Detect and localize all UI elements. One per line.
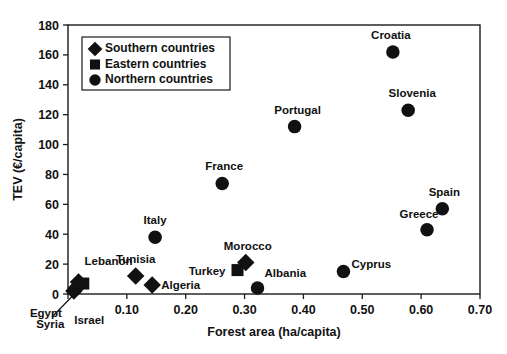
data-point-label-albania: Albania bbox=[265, 267, 307, 279]
data-point-label-croatia: Croatia bbox=[371, 29, 411, 41]
data-point-croatia bbox=[386, 45, 400, 59]
data-point-portugal bbox=[288, 120, 302, 134]
data-point-label-portugal: Portugal bbox=[274, 104, 321, 116]
x-axis-tick-label: 0.50 bbox=[350, 303, 374, 317]
data-point-label-turkey: Turkey bbox=[189, 265, 226, 277]
legend-marker-square bbox=[90, 59, 100, 69]
legend-marker-circle bbox=[89, 74, 100, 85]
y-axis-tick-label: 60 bbox=[45, 198, 59, 212]
x-axis-tick-label: 0.30 bbox=[232, 303, 256, 317]
x-axis-tick-label: 0.20 bbox=[174, 303, 198, 317]
y-axis-title: TEV (€/capita) bbox=[11, 118, 25, 201]
data-point-greece bbox=[420, 223, 434, 237]
legend-label-eastern: Eastern countries bbox=[105, 57, 207, 71]
y-axis-tick-label: 40 bbox=[45, 228, 59, 242]
x-axis-tick-label: 0.40 bbox=[291, 303, 315, 317]
y-axis-tick-label: 80 bbox=[45, 168, 59, 182]
data-point-france bbox=[215, 177, 229, 191]
y-axis-tick-label: 20 bbox=[45, 258, 59, 272]
data-point-label-israel: Israel bbox=[74, 314, 104, 326]
data-point-albania bbox=[251, 281, 265, 295]
data-point-tunisia bbox=[127, 267, 145, 285]
data-point-label-lebanon: Lebanon bbox=[85, 255, 133, 267]
data-point-label-france: France bbox=[205, 160, 243, 172]
data-point-algeria bbox=[143, 276, 161, 294]
legend-label-northern: Northern countries bbox=[105, 72, 213, 86]
data-point-label-morocco: Morocco bbox=[224, 240, 272, 252]
x-axis-tick-label: 0.60 bbox=[409, 303, 433, 317]
y-axis-tick-label: 140 bbox=[38, 78, 59, 92]
data-point-label-italy: Italy bbox=[144, 214, 168, 226]
data-point-label-cyprus: Cyprus bbox=[351, 258, 391, 270]
data-point-label-slovenia: Slovenia bbox=[389, 87, 437, 99]
y-axis-tick-label: 100 bbox=[38, 138, 59, 152]
data-point-label-greece: Greece bbox=[400, 208, 439, 220]
y-axis-tick-label: 0 bbox=[52, 288, 59, 302]
y-axis-tick-label: 120 bbox=[38, 108, 59, 122]
y-axis-tick-label: 160 bbox=[38, 48, 59, 62]
y-axis-tick-label: 180 bbox=[38, 19, 59, 33]
chart-canvas: 0204060801001201401601800.100.200.300.40… bbox=[0, 0, 507, 354]
data-point-label-algeria: Algeria bbox=[161, 279, 201, 291]
data-point-label-syria: Syria bbox=[36, 318, 65, 330]
data-point-cyprus bbox=[337, 265, 351, 279]
legend-label-southern: Southern countries bbox=[105, 41, 215, 55]
x-axis-tick-label: 0.10 bbox=[115, 303, 139, 317]
x-axis-title: Forest area (ha/capita) bbox=[207, 325, 340, 339]
data-point-label-spain: Spain bbox=[429, 186, 460, 198]
data-point-slovenia bbox=[401, 103, 415, 117]
data-point-turkey bbox=[232, 264, 244, 276]
scatter-chart-figure: 0204060801001201401601800.100.200.300.40… bbox=[0, 0, 507, 354]
data-point-italy bbox=[148, 230, 162, 244]
x-axis-tick-label: 0.70 bbox=[468, 303, 492, 317]
data-point-israel bbox=[77, 278, 89, 290]
